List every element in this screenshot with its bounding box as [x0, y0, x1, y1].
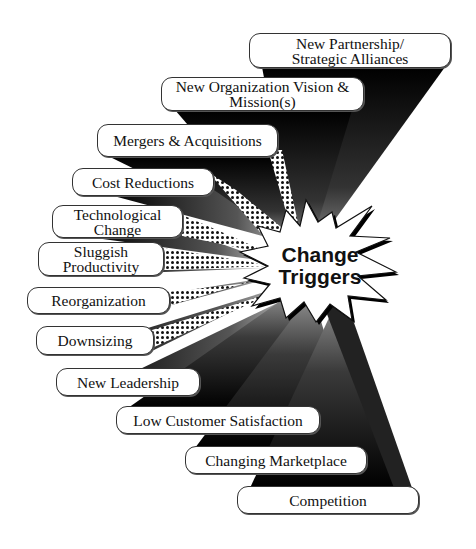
trigger-mergers-acquisitions: Mergers & Acquisitions	[97, 124, 278, 157]
trigger-new-leadership: New Leadership	[56, 368, 200, 396]
trigger-reorganization: Reorganization	[27, 287, 170, 314]
trigger-new-organization-vision: New Organization Vision & Mission(s)	[161, 77, 364, 111]
trigger-sluggish-productivity: Sluggish Productivity	[38, 242, 164, 276]
trigger-downsizing: Downsizing	[36, 326, 154, 355]
center-label-line-1: Change	[268, 244, 372, 266]
trigger-low-customer-satisfaction: Low Customer Satisfaction	[116, 406, 320, 434]
trigger-cost-reductions: Cost Reductions	[72, 168, 214, 196]
trigger-competition: Competition	[237, 486, 419, 514]
center-label: Change Triggers	[268, 244, 372, 288]
trigger-changing-marketplace: Changing Marketplace	[185, 446, 367, 474]
trigger-new-partnership: New Partnership/ Strategic Alliances	[249, 33, 451, 68]
change-triggers-diagram: Change Triggers New Partnership/ Strateg…	[0, 0, 476, 549]
trigger-technological-change: Technological Change	[52, 205, 183, 238]
center-label-line-2: Triggers	[268, 266, 372, 288]
